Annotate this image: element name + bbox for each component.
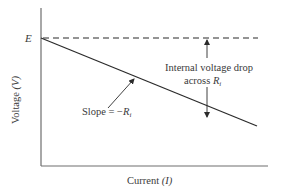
x-axis-label-unit: (I) bbox=[162, 175, 173, 186]
y-intercept-label: E bbox=[25, 33, 32, 44]
voltage-current-diagram bbox=[0, 0, 282, 192]
internal-drop-label-line2: across Ri bbox=[184, 76, 221, 88]
y-axis-label-text: Voltage bbox=[10, 92, 21, 124]
slope-label: Slope = −Ri bbox=[82, 107, 131, 119]
internal-drop-across: across bbox=[184, 75, 210, 86]
y-axis-label: Voltage (V) bbox=[11, 76, 22, 124]
internal-drop-subscript: i bbox=[219, 80, 221, 88]
y-axis-label-unit: (V) bbox=[10, 76, 21, 89]
terminal-voltage-line bbox=[41, 38, 257, 126]
slope-subscript: i bbox=[129, 111, 131, 119]
slope-arrow bbox=[108, 79, 134, 108]
x-axis-label: Current (I) bbox=[127, 176, 172, 187]
x-axis-label-text: Current bbox=[127, 175, 159, 186]
slope-label-prefix: Slope = − bbox=[82, 106, 123, 117]
internal-drop-label-line1: Internal voltage drop bbox=[165, 63, 253, 74]
